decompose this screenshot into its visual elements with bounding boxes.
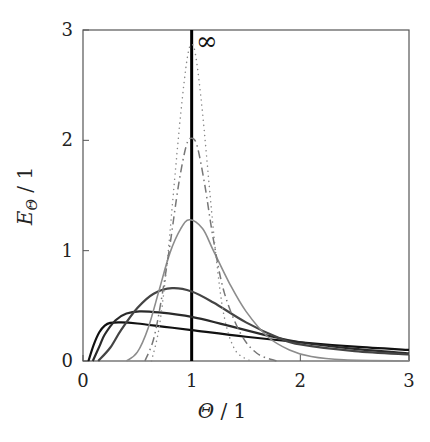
y-tick-label: 0 (62, 350, 73, 371)
x-tick-label: 2 (295, 370, 306, 391)
series-curve-black (88, 322, 409, 361)
y-axis-label: EΘ / 1 (13, 167, 40, 226)
y-tick-label: 1 (62, 240, 73, 261)
y-axis-subscript: Θ (24, 199, 40, 211)
y-tick-label: 3 (62, 19, 73, 40)
x-axis-label: Θ / 1 (198, 399, 247, 423)
x-axis-unit: / 1 (214, 399, 246, 423)
y-axis-symbol: E (13, 210, 37, 226)
x-tick-label: 3 (403, 370, 414, 391)
y-tick-label: 2 (62, 129, 73, 150)
rtd-chart: 01230123 ∞ Θ / 1 EΘ / 1 (0, 0, 430, 442)
x-axis-symbol: Θ (198, 399, 214, 423)
x-tick-label: 0 (77, 370, 88, 391)
infinity-annotation: ∞ (196, 26, 218, 56)
data-curves (88, 30, 409, 361)
x-tick-label: 1 (186, 370, 197, 391)
y-axis-unit: / 1 (13, 167, 37, 199)
